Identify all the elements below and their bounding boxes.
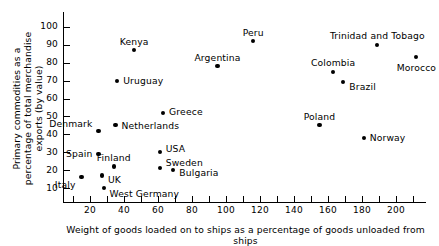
x-tick bbox=[226, 196, 227, 202]
x-tick-label: 180 bbox=[347, 206, 377, 215]
x-tick bbox=[107, 196, 108, 202]
x-tick bbox=[90, 196, 91, 202]
data-point[interactable] bbox=[113, 123, 117, 127]
x-tick bbox=[413, 196, 414, 202]
x-tick-label: 100 bbox=[211, 206, 241, 215]
x-tick bbox=[362, 196, 363, 202]
x-tick-label: 20 bbox=[75, 206, 105, 215]
y-tick bbox=[64, 27, 70, 28]
x-tick bbox=[379, 196, 380, 202]
data-point[interactable] bbox=[100, 173, 104, 177]
data-point[interactable] bbox=[341, 80, 345, 84]
data-point-label: Morocco bbox=[397, 63, 437, 72]
data-point-label: Norway bbox=[370, 133, 406, 142]
data-point-label: Denmark bbox=[49, 119, 92, 128]
data-point[interactable] bbox=[102, 186, 106, 190]
data-point[interactable] bbox=[158, 150, 162, 154]
y-tick bbox=[64, 45, 70, 46]
x-tick-label: 40 bbox=[109, 206, 139, 215]
x-axis-line bbox=[63, 202, 426, 203]
y-tick bbox=[64, 170, 70, 171]
x-tick-label: 80 bbox=[177, 206, 207, 215]
data-point-label: UK bbox=[108, 175, 121, 184]
data-point-label: Argentina bbox=[194, 53, 240, 62]
data-point[interactable] bbox=[158, 166, 162, 170]
data-point-label: Brazil bbox=[349, 82, 376, 91]
data-point-label: Trinidad and Tobago bbox=[330, 31, 425, 40]
data-point-label: Spain bbox=[66, 149, 92, 158]
scatter-chart: 102030405060708090100 204060801001201401… bbox=[0, 0, 439, 246]
x-tick bbox=[73, 196, 74, 202]
data-point[interactable] bbox=[79, 175, 83, 179]
x-tick bbox=[294, 196, 295, 202]
data-point[interactable] bbox=[362, 136, 366, 140]
x-tick bbox=[396, 196, 397, 202]
x-tick bbox=[328, 196, 329, 202]
x-tick bbox=[277, 196, 278, 202]
data-point[interactable] bbox=[375, 43, 379, 47]
x-tick-label: 160 bbox=[313, 206, 343, 215]
data-point[interactable] bbox=[115, 79, 119, 83]
x-tick bbox=[209, 196, 210, 202]
data-point[interactable] bbox=[96, 129, 100, 133]
x-tick bbox=[311, 196, 312, 202]
y-tick bbox=[64, 81, 70, 82]
x-tick bbox=[243, 196, 244, 202]
x-tick-label: 60 bbox=[143, 206, 173, 215]
data-point-label: Uruguay bbox=[123, 76, 163, 85]
data-point[interactable] bbox=[215, 64, 219, 68]
x-tick-label: 120 bbox=[245, 206, 275, 215]
data-point[interactable] bbox=[171, 168, 175, 172]
data-point[interactable] bbox=[414, 55, 418, 59]
data-point-label: West Germany bbox=[110, 189, 180, 198]
x-tick bbox=[260, 196, 261, 202]
data-point[interactable] bbox=[132, 48, 136, 52]
y-tick bbox=[64, 99, 70, 100]
data-point[interactable] bbox=[317, 123, 321, 127]
data-point-label: Sweden bbox=[166, 158, 203, 167]
data-point-label: Finland bbox=[97, 153, 131, 162]
data-point-label: Poland bbox=[304, 112, 336, 121]
x-tick bbox=[345, 196, 346, 202]
data-point[interactable] bbox=[251, 39, 255, 43]
y-axis-line bbox=[63, 12, 64, 202]
data-point-label: Greece bbox=[169, 107, 203, 116]
x-tick-label: 140 bbox=[279, 206, 309, 215]
y-tick bbox=[64, 134, 70, 135]
data-point-label: Kenya bbox=[120, 37, 149, 46]
y-tick bbox=[64, 63, 70, 64]
x-axis-title: Weight of goods loaded on to ships as a … bbox=[63, 224, 428, 246]
data-point-label: Peru bbox=[243, 28, 264, 37]
x-tick bbox=[192, 196, 193, 202]
data-point-label: USA bbox=[166, 144, 185, 153]
data-point-label: Colombia bbox=[311, 58, 355, 67]
y-axis-title: Primary commodities as a percentage of t… bbox=[11, 25, 44, 193]
data-point-label: Netherlands bbox=[122, 121, 180, 130]
data-point[interactable] bbox=[161, 111, 165, 115]
data-point[interactable] bbox=[331, 70, 335, 74]
data-point[interactable] bbox=[112, 164, 116, 168]
data-point-label: Bulgaria bbox=[179, 168, 218, 177]
x-tick-label: 200 bbox=[381, 206, 411, 215]
data-point-label: Italy bbox=[55, 180, 76, 189]
